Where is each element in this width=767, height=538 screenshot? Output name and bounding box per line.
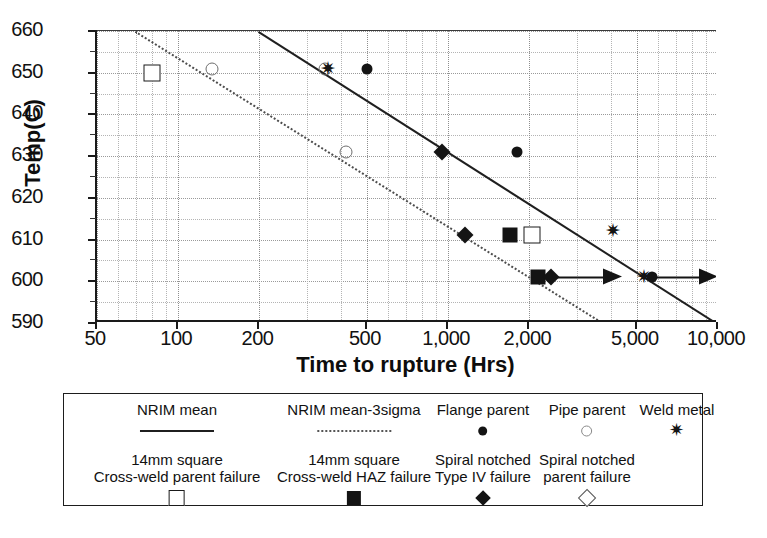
x-axis-tick-label: 500 [349,327,381,350]
legend-symbol-slot [277,488,431,508]
data-point-star: ✷ [605,223,622,240]
gridline-vertical [307,31,308,320]
y-axis-tick-mark-minor [90,218,96,219]
legend-symbol-slot [94,488,261,508]
gridline-vertical [422,31,423,320]
legend-filled-diamond-icon [475,490,491,506]
y-axis-tick-mark-minor [90,134,96,135]
x-axis-tick-mark [257,322,259,329]
y-axis-tick-mark [88,280,97,282]
legend-symbol-slot [137,421,217,441]
legend-symbol-slot [549,421,626,441]
legend-line-icon [140,430,214,432]
y-axis-tick-mark [88,30,97,32]
legend-filled-square-icon [347,491,361,505]
arrow-head-icon [603,269,622,285]
y-axis-tick-label: 590 [0,310,43,333]
legend-item: NRIM mean-3sigma [287,401,420,441]
arrow-shaft [556,277,606,279]
legend-item-label: Weld metal [640,401,715,418]
legend-item: Pipe parent [549,401,626,441]
legend-item-label: Spiral notched [435,451,531,468]
legend-dotted-line-icon [317,430,391,432]
x-axis-tick-label: 10,000 [687,327,745,350]
x-axis-tick-label: 200 [242,327,274,350]
y-axis-tick-mark-minor [90,93,96,94]
legend-item: 14mm squareCross-weld parent failure [94,451,261,508]
arrow-shaft [656,277,702,279]
legend-item: 14mm squareCross-weld HAZ failure [277,451,431,508]
y-axis-tick-mark [88,197,97,199]
legend-item-label: NRIM mean [137,401,217,418]
data-point-filled-square [503,228,518,243]
legend-symbol-slot [437,421,530,441]
legend-item-label: Pipe parent [549,401,626,418]
legend-filled-circle-icon [478,427,487,436]
data-point-star: ✷ [635,269,652,286]
legend-item-label: Cross-weld parent failure [94,468,261,485]
x-axis-tick-label: 100 [160,327,192,350]
x-axis-tick-label: 5,000 [611,327,659,350]
x-axis-tick-mark [527,322,529,329]
plot-area: ✷✷✷ [95,30,716,322]
data-point-open-square [524,227,541,244]
legend-star-icon: ✷ [669,421,684,439]
legend-item-label: 14mm square [277,451,431,468]
legend-item: Spiral notchedType IV failure [435,451,531,508]
chart-figure: ✷✷✷ 590600610620630640650660501002005001… [0,0,767,380]
gridline-vertical [136,31,137,320]
x-axis-tick-mark [446,322,448,329]
y-axis-tick-label: 660 [0,18,43,41]
x-axis-tick-label: 50 [84,327,105,350]
data-point-open-circle [205,62,218,75]
y-axis-tick-mark [88,113,97,115]
legend-symbol-slot: ✷ [640,421,715,441]
gridline-vertical [118,31,119,320]
y-axis-title: Temp(C) [20,48,46,238]
y-axis-tick-mark [88,239,97,241]
legend-item-label: Cross-weld HAZ failure [277,468,431,485]
x-axis-tick-label: 1,000 [422,327,470,350]
legend-item-label: Spiral notched [539,451,635,468]
legend-item: Weld metal✷ [640,401,715,441]
legend-item: NRIM mean [137,401,217,441]
x-axis-tick-mark [635,322,637,329]
x-axis-tick-label: 2,000 [504,327,552,350]
legend-open-circle-icon [581,426,592,437]
y-axis-tick-mark-minor [90,259,96,260]
chart-legend: NRIM meanNRIM mean-3sigmaFlange parentPi… [63,393,703,506]
chart-screenshot: ✷✷✷ 590600610620630640650660501002005001… [0,0,767,538]
x-axis-tick-mark [95,322,97,329]
legend-symbol-slot [435,488,531,508]
legend-item-label: parent failure [539,468,635,485]
y-axis-tick-mark-minor [90,301,96,302]
legend-symbol-slot [287,421,420,441]
data-point-filled-circle [512,146,523,157]
legend-item-label: NRIM mean-3sigma [287,401,420,418]
x-axis-title: Time to rupture (Hrs) [95,352,716,378]
y-axis-tick-mark-minor [90,176,96,177]
gridline-vertical [436,31,437,320]
x-axis-tick-mark [176,322,178,329]
data-point-open-square [144,64,161,81]
y-axis-tick-mark-minor [90,51,96,52]
legend-item: Spiral notchedparent failure [539,451,635,508]
legend-open-diamond-icon [578,489,596,507]
y-axis-tick-mark [88,155,97,157]
legend-item: Flange parent [437,401,530,441]
gridline-vertical [406,31,407,320]
gridline-vertical [166,31,167,320]
legend-symbol-slot [539,488,635,508]
data-point-open-circle [340,145,353,158]
runout-arrow [656,276,716,279]
data-point-star: ✷ [320,60,337,77]
legend-item-label: 14mm square [94,451,261,468]
y-axis-tick-mark [88,72,97,74]
data-point-filled-circle [361,63,372,74]
legend-open-square-icon [169,490,185,506]
legend-item-label: Flange parent [437,401,530,418]
gridline-vertical [178,31,179,320]
gridline-vertical [97,31,98,320]
gridline-vertical [341,31,342,320]
gridline-vertical [388,31,389,320]
